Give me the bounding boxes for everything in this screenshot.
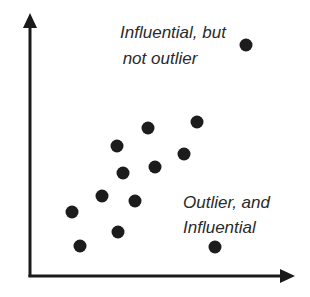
data-point	[111, 140, 124, 153]
data-point	[117, 167, 130, 180]
data-point	[66, 206, 79, 219]
y-axis-arrow-icon	[23, 13, 37, 28]
special-data-point	[209, 241, 222, 254]
x-axis	[29, 269, 296, 283]
scatter-diagram: Influential, but not outlier Outlier, an…	[0, 0, 310, 297]
data-point	[112, 226, 125, 239]
special-data-point	[240, 39, 253, 52]
data-point	[149, 161, 162, 174]
annotation-bottom-line2: Influential	[183, 218, 257, 237]
data-point	[96, 190, 109, 203]
annotation-top-line1: Influential, but	[120, 23, 227, 42]
data-point	[129, 195, 142, 208]
annotation-bottom-line1: Outlier, and	[183, 193, 270, 212]
data-point	[191, 116, 204, 129]
data-point	[74, 240, 87, 253]
data-point	[178, 148, 191, 161]
x-axis-arrow-icon	[280, 269, 295, 283]
y-axis	[23, 13, 37, 277]
annotation-top-line2: not outlier	[123, 49, 199, 68]
data-point	[142, 122, 155, 135]
